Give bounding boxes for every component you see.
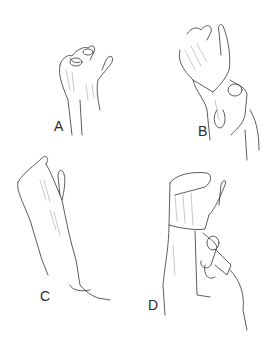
panel-a: A <box>0 0 135 140</box>
hand-drawing-a-icon <box>0 0 135 140</box>
panel-b: B <box>135 0 271 165</box>
panel-label-c: C <box>40 289 50 303</box>
panel-label-d: D <box>148 298 158 312</box>
panel-label-b: B <box>198 124 207 138</box>
hand-drawing-c-icon <box>0 140 135 315</box>
panel-d: D <box>135 165 271 337</box>
panel-c: C <box>0 140 135 315</box>
hand-drawing-b-icon <box>135 0 271 165</box>
panel-label-a: A <box>54 119 63 133</box>
bandaging-illustration: A B C <box>0 0 271 337</box>
